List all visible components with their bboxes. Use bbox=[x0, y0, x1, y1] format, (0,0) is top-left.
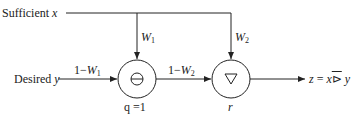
node-2-circle bbox=[212, 60, 250, 98]
w2-label: W2 bbox=[235, 30, 249, 48]
node-1-caption: q =1 bbox=[124, 100, 146, 114]
one-minus-w1-label: 1−W1 bbox=[74, 63, 101, 81]
w1-label: W1 bbox=[141, 30, 155, 48]
node-2-caption: r bbox=[228, 100, 233, 114]
down-triangle-icon bbox=[225, 74, 237, 84]
circled-minus-icon bbox=[131, 73, 143, 85]
sufficient-input-label: Sufficient x bbox=[2, 6, 57, 20]
one-minus-w2-label: 1−W2 bbox=[168, 63, 195, 81]
output-label: z = x⊳ y bbox=[309, 72, 350, 86]
aggregation-diagram: Sufficient x Desired y W1 W2 1−W1 1−W2 q… bbox=[0, 0, 360, 120]
desired-input-label: Desired y bbox=[14, 72, 60, 86]
